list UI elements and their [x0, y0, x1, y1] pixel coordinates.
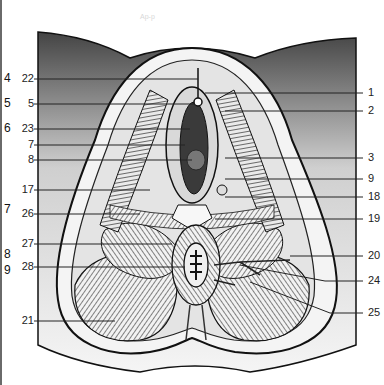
outer-label-4: 4 [4, 73, 11, 84]
label-26: 26 [12, 208, 34, 219]
label-9-right: 9 [368, 173, 374, 184]
label-22: 22 [12, 73, 34, 84]
outer-label-7: 7 [4, 204, 11, 215]
label-20: 20 [368, 250, 380, 261]
outer-label-9: 9 [4, 265, 11, 276]
label-8: 8 [12, 154, 34, 165]
anatomical-illustration [0, 0, 384, 385]
label-21: 21 [12, 315, 34, 326]
outer-label-5: 5 [4, 98, 11, 109]
vestibule-inner [180, 102, 208, 194]
label-25: 25 [368, 307, 380, 318]
label-19: 19 [368, 213, 380, 224]
label-18: 18 [368, 191, 380, 202]
outer-label-8: 8 [4, 249, 11, 260]
label-23: 23 [12, 123, 34, 134]
label-28: 28 [12, 261, 34, 272]
label-1: 1 [368, 87, 374, 98]
outer-label-6: 6 [4, 123, 11, 134]
label-2: 2 [368, 105, 374, 116]
label-5: 5 [12, 98, 34, 109]
label-3: 3 [368, 152, 374, 163]
label-17: 17 [12, 184, 34, 195]
vestibular-gland [217, 185, 227, 195]
clitoris [194, 98, 202, 106]
label-27: 27 [12, 238, 34, 249]
label-7: 7 [12, 139, 34, 150]
label-24: 24 [368, 275, 380, 286]
